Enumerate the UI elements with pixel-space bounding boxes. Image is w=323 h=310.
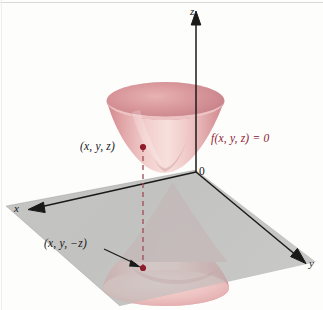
point-upper-label: (x, y, z) [80, 141, 115, 153]
z-axis-label: z [190, 6, 194, 17]
x-axis-label: x [14, 203, 19, 214]
figure-container: z x y 0 f(x, y, z) = 0 (x, y, z) (x, y, … [0, 0, 323, 310]
origin-label: 0 [199, 166, 205, 178]
three-d-scene [0, 0, 323, 310]
y-axis-label: y [309, 258, 314, 269]
upper-cone [107, 82, 225, 173]
point-lower-dot [140, 265, 146, 271]
point-upper-dot [140, 144, 146, 150]
surface-equation-label: f(x, y, z) = 0 [211, 133, 269, 145]
point-lower-label: (x, y, −z) [44, 238, 87, 250]
